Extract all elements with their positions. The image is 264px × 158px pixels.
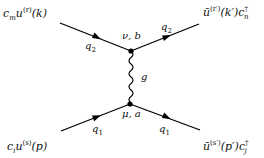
gluon-propagator <box>129 51 133 103</box>
label-part: (p′) <box>221 140 239 153</box>
vertex-bottom <box>127 101 132 106</box>
label-part: 1 <box>98 129 102 137</box>
gluon-label: g <box>141 72 147 82</box>
vertex-top <box>128 48 133 53</box>
label-part: 1 <box>165 129 169 137</box>
label-part: u <box>16 7 23 20</box>
label-part: (s) <box>23 139 32 147</box>
arrow-icon <box>92 33 101 40</box>
label-part: (k′) <box>221 6 239 19</box>
momentum-label-bottom-in: q1 <box>92 124 103 134</box>
label-part: 2 <box>91 46 95 54</box>
label-bottom-right: ū(s′)(p′)c†j <box>203 141 247 152</box>
momentum-label-top-out: q2 <box>161 22 172 32</box>
arrow-icon <box>162 35 171 41</box>
label-part: u <box>15 140 22 153</box>
label-part: n <box>244 13 249 21</box>
vertex-label-top: ν, b <box>122 31 141 41</box>
label-bottom-left: ciu(s)(p) <box>7 141 47 152</box>
feynman-diagram <box>0 0 264 158</box>
momentum-label-top-in: q2 <box>85 41 96 51</box>
arrow-icon <box>162 112 171 119</box>
vertex-label-bottom: μ, a <box>122 109 141 119</box>
arrow-icon <box>92 115 101 121</box>
label-part: 2 <box>167 27 171 35</box>
label-part: j <box>245 147 247 155</box>
label-part: (r′) <box>210 5 220 13</box>
label-top-right: ū(r′)(k′)c†n <box>203 7 248 18</box>
label-part: (s′) <box>210 139 221 147</box>
label-part: m <box>9 14 16 22</box>
label-part: (r) <box>23 6 32 14</box>
label-top-left: cmu(r)(k) <box>3 8 47 19</box>
label-part: (p) <box>32 140 48 153</box>
label-part: (k) <box>32 7 47 20</box>
momentum-label-bottom-out: q1 <box>159 124 170 134</box>
